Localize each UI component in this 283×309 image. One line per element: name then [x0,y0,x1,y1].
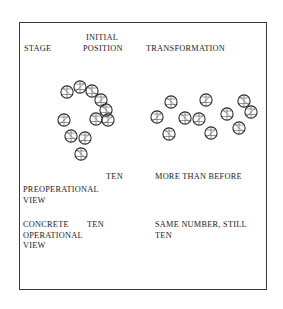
token-circle [162,127,176,141]
token-circle [220,107,234,121]
token-circle [204,126,218,140]
header-stage: STAGE [24,44,51,54]
header-initial-position-line2: POSITION [83,44,123,54]
token-circle [60,85,74,99]
token-circle [164,95,178,109]
row2-result-line2: TEN [155,231,265,242]
token-circle [192,112,206,126]
token-circle [78,131,92,145]
row1-transformation-result: MORE THAN BEFORE [155,172,242,182]
figure-canvas: STAGE INITIAL POSITION TRANSFORMATION [0,0,283,309]
token-circle [64,129,78,143]
token-circle [232,121,246,135]
token-circle [244,105,258,119]
token-circle [199,93,213,107]
row1-stage-line1: PREOPERATIONAL [23,185,113,196]
token-circle [57,113,71,127]
row1-stage-label: PREOPERATIONAL VIEW [23,185,113,206]
header-transformation: TRANSFORMATION [146,44,225,54]
row1-stage-line2: VIEW [23,196,113,207]
token-circle [150,110,164,124]
row2-transformation-result: SAME NUMBER, STILL TEN [155,220,265,241]
row2-stage-line2: OPERATIONAL [23,231,103,242]
token-circle [101,113,115,127]
row2-result-line1: SAME NUMBER, STILL [155,220,265,231]
token-circle [178,111,192,125]
header-initial-position-line1: INITIAL [86,33,118,43]
row2-initial-count: TEN [87,220,104,230]
row2-stage-line3: VIEW [23,241,103,252]
token-circle [74,147,88,161]
row1-initial-count: TEN [106,172,123,182]
